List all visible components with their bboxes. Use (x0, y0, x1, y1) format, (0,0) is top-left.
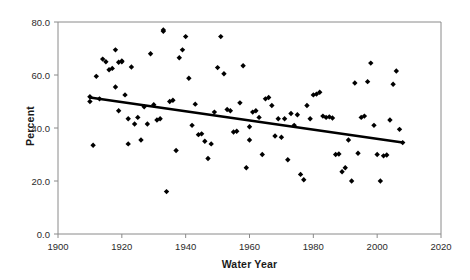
data-point (205, 156, 210, 161)
data-point (390, 82, 395, 87)
data-point (138, 137, 143, 142)
data-point (298, 172, 303, 177)
data-point (189, 123, 194, 128)
data-point (173, 148, 178, 153)
data-point (237, 100, 242, 105)
y-tick-marks (54, 22, 58, 234)
data-point (209, 141, 214, 146)
data-point (349, 178, 354, 183)
data-point (394, 68, 399, 73)
data-point (288, 111, 293, 116)
data-point (218, 34, 223, 39)
data-point (387, 117, 392, 122)
data-point (122, 92, 127, 97)
data-point (129, 64, 134, 69)
data-point (247, 137, 252, 142)
data-point (87, 99, 92, 104)
x-tick-label: 1980 (303, 241, 324, 252)
data-point (177, 55, 182, 60)
x-tick-label: 1900 (47, 241, 68, 252)
data-point (339, 169, 344, 174)
trend-line-segment (90, 98, 403, 143)
data-point (116, 108, 121, 113)
data-point (378, 178, 383, 183)
data-point (164, 189, 169, 194)
data-point (240, 63, 245, 68)
x-tick-label: 1960 (239, 241, 260, 252)
data-point (244, 165, 249, 170)
plot-area: 0.020.040.060.080.0 19001920194019601980… (0, 0, 470, 280)
data-point (145, 121, 150, 126)
data-point (295, 112, 300, 117)
data-point (346, 137, 351, 142)
data-point (282, 116, 287, 121)
trend-line (90, 98, 403, 143)
data-point (94, 74, 99, 79)
data-point (285, 157, 290, 162)
y-tick-label: 60.0 (32, 70, 51, 81)
data-point (256, 115, 261, 120)
data-point (113, 84, 118, 89)
data-point (90, 143, 95, 148)
data-point (113, 47, 118, 52)
data-point (355, 150, 360, 155)
data-point (132, 121, 137, 126)
x-tick-marks (58, 234, 441, 238)
data-point (371, 123, 376, 128)
data-point (365, 79, 370, 84)
data-point (126, 116, 131, 121)
data-point (247, 124, 252, 129)
data-point (397, 127, 402, 132)
data-point (368, 60, 373, 65)
data-point (307, 116, 312, 121)
data-point (186, 75, 191, 80)
y-tick-label: 20.0 (32, 176, 51, 187)
data-point (215, 65, 220, 70)
data-point (183, 34, 188, 39)
data-point (221, 71, 226, 76)
data-point (180, 47, 185, 52)
x-axis-title: Water Year (58, 258, 441, 270)
data-point (193, 101, 198, 106)
y-tick-label: 80.0 (32, 17, 51, 28)
y-tick-label: 0.0 (37, 229, 50, 240)
data-point (301, 177, 306, 182)
data-point (272, 133, 277, 138)
data-point (352, 80, 357, 85)
data-point (343, 165, 348, 170)
scatter-chart: 0.020.040.060.080.0 19001920194019601980… (0, 0, 470, 280)
x-tick-label: 2000 (367, 241, 388, 252)
x-tick-label: 1920 (111, 241, 132, 252)
data-point (269, 103, 274, 108)
data-point (202, 139, 207, 144)
data-point (304, 103, 309, 108)
data-point (148, 51, 153, 56)
data-point (126, 141, 131, 146)
y-axis-title: Percent (24, 86, 36, 166)
data-point (260, 152, 265, 157)
x-tick-labels: 1900192019401960198020002020 (47, 241, 451, 252)
x-tick-label: 1940 (175, 241, 196, 252)
data-point (276, 116, 281, 121)
data-points (87, 27, 405, 194)
data-point (374, 152, 379, 157)
x-tick-label: 2020 (430, 241, 451, 252)
data-point (279, 135, 284, 140)
data-point (135, 115, 140, 120)
